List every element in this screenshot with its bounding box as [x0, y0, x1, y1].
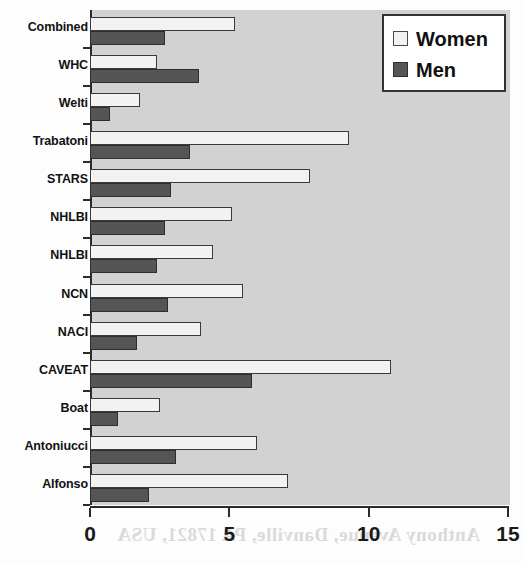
bar-men	[90, 374, 252, 388]
bar-men	[90, 412, 118, 426]
y-axis-category-label: CAVEAT	[2, 363, 88, 377]
bar-men	[90, 336, 137, 350]
bar-women	[90, 131, 349, 145]
bar-women	[90, 93, 140, 107]
y-axis-category-label: NHLBI	[2, 248, 88, 262]
y-axis-category-label: STARS	[2, 172, 88, 186]
bar-men	[90, 145, 190, 159]
x-axis-tick-label: 15	[496, 522, 519, 546]
bar-men	[90, 221, 165, 235]
y-axis-category-label: Combined	[2, 20, 88, 34]
bar-men	[90, 298, 168, 312]
bar-women	[90, 55, 157, 69]
x-axis-tick	[89, 508, 91, 517]
bar-men	[90, 259, 157, 273]
bar-women	[90, 360, 391, 374]
y-axis-category-label: WHC	[2, 58, 88, 72]
x-axis-tick	[368, 508, 370, 517]
bar-women	[90, 322, 201, 336]
x-axis-tick	[507, 508, 509, 517]
bar-women	[90, 284, 243, 298]
legend-label: Women	[416, 29, 488, 49]
x-axis-tick-label: 5	[223, 522, 235, 546]
bar-women	[90, 474, 288, 488]
legend-swatch-women-icon	[393, 31, 408, 46]
bar-men	[90, 69, 199, 83]
y-axis-labels: CombinedWHCWeltiTrabatoniSTARSNHLBINHLBI…	[0, 10, 88, 505]
bar-women	[90, 17, 235, 31]
bar-men	[90, 107, 110, 121]
y-axis-category-label: NCN	[2, 287, 88, 301]
bar-women	[90, 436, 257, 450]
y-axis-category-label: NHLBI	[2, 210, 88, 224]
x-axis-line	[90, 506, 509, 508]
legend-swatch-men-icon	[393, 62, 408, 77]
x-axis-tick-label: 10	[357, 522, 380, 546]
bar-women	[90, 207, 232, 221]
chart-container: Anthony Avenue, Danville, PA 17821, USA …	[0, 0, 523, 564]
legend-item: Men	[393, 54, 504, 85]
y-axis-category-label: Welti	[2, 96, 88, 110]
bar-men	[90, 450, 176, 464]
y-axis-category-label: Alfonso	[2, 477, 88, 491]
bar-women	[90, 245, 213, 259]
bar-men	[90, 183, 171, 197]
bar-women	[90, 398, 160, 412]
legend: WomenMen	[382, 14, 506, 92]
y-axis-category-label: Boat	[2, 401, 88, 415]
scan-bleedthrough-artifact: Anthony Avenue, Danville, PA 17821, USA	[60, 524, 480, 554]
legend-label: Men	[416, 60, 456, 80]
x-axis-tick-label: 0	[84, 522, 96, 546]
y-axis-category-label: NACI	[2, 325, 88, 339]
x-axis-tick	[228, 508, 230, 517]
legend-item: Women	[393, 23, 504, 54]
y-axis-category-label: Antoniucci	[2, 439, 88, 453]
bar-men	[90, 31, 165, 45]
bar-women	[90, 169, 310, 183]
bar-men	[90, 488, 149, 502]
y-axis-category-label: Trabatoni	[2, 134, 88, 148]
